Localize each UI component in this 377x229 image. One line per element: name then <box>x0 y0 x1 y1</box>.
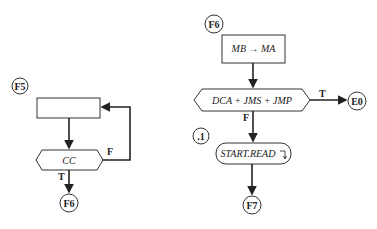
connector-f6-entry: F6 <box>205 15 223 33</box>
connector-dot-1: .1 <box>193 128 209 144</box>
decision-dca-jms-jmp: DCA + JMS + JMP <box>194 89 310 111</box>
svg-text:F7: F7 <box>246 200 257 211</box>
connector-f6-exit: F6 <box>60 194 78 212</box>
svg-text:.1: .1 <box>197 131 205 142</box>
svg-text:F6: F6 <box>208 19 219 30</box>
svg-text:DCA + JMS + JMP: DCA + JMS + JMP <box>211 95 292 106</box>
right-flow: F6 MB → MA DCA + JMS + JMP T E0 F .1 STA… <box>193 15 366 214</box>
process-box-mb-ma: MB → MA <box>222 35 285 63</box>
decision-cc: CC <box>36 150 103 170</box>
connector-e0: E0 <box>348 92 366 110</box>
flowchart-canvas: F5 CC F T F6 F6 MB → MA DCA + JMS + JMP <box>0 0 377 229</box>
left-flow: F5 CC F T F6 <box>12 78 130 212</box>
svg-text:MB → MA: MB → MA <box>231 43 277 54</box>
connector-f5: F5 <box>12 78 28 94</box>
false-label: F <box>107 146 113 157</box>
svg-text:START.READ: START.READ <box>221 148 277 159</box>
true-label: T <box>58 171 65 182</box>
connector-f7: F7 <box>243 196 261 214</box>
true-label: T <box>319 88 326 99</box>
svg-text:F5: F5 <box>14 81 25 92</box>
process-box-empty <box>37 98 100 118</box>
subroutine-start-read: START.READ <box>216 143 291 164</box>
false-label: F <box>243 112 249 123</box>
svg-text:E0: E0 <box>351 96 363 107</box>
svg-text:F6: F6 <box>63 198 74 209</box>
svg-text:CC: CC <box>62 155 76 166</box>
